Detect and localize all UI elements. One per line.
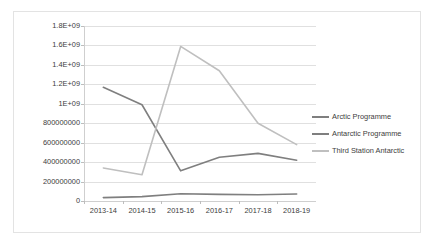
y-axis: 02000000004000000006000000008000000001E+…	[14, 12, 80, 232]
legend-item[interactable]: Antarctic Programme	[312, 125, 424, 142]
x-axis-tick	[161, 201, 162, 204]
y-axis-label: 1.8E+09	[52, 22, 80, 29]
x-axis-label: 2018-19	[283, 207, 310, 214]
y-axis-label: 200000000	[43, 178, 80, 185]
legend-swatch-icon	[312, 133, 329, 135]
x-axis-tick	[123, 201, 124, 204]
y-axis-label: 1.6E+09	[52, 41, 80, 48]
chart-legend: Arctic ProgrammeAntarctic ProgrammeThird…	[312, 108, 424, 159]
x-axis-label: 2014-15	[128, 207, 155, 214]
x-axis-label: 2016-17	[206, 207, 233, 214]
legend-label: Antarctic Programme	[332, 130, 401, 137]
legend-swatch-icon	[312, 116, 329, 118]
x-axis-label: 2013-14	[90, 207, 117, 214]
legend-label: Arctic Programme	[332, 113, 391, 120]
x-axis-label: 2017-18	[244, 207, 271, 214]
x-axis-tick	[239, 201, 240, 204]
y-axis-label: 800000000	[43, 119, 80, 126]
y-axis-label: 0	[76, 197, 80, 204]
x-axis-label: 2015-16	[167, 207, 194, 214]
x-axis-tick	[84, 201, 85, 204]
x-axis: 2013-142014-152015-162016-172017-182018-…	[84, 205, 316, 219]
y-axis-label: 1E+09	[58, 100, 80, 107]
legend-swatch-icon	[312, 150, 329, 152]
x-axis-tick	[200, 201, 201, 204]
plot-series	[84, 26, 316, 201]
y-axis-label: 1.2E+09	[52, 80, 80, 87]
legend-item[interactable]: Third Station Antarctic	[312, 142, 424, 159]
y-axis-label: 600000000	[43, 139, 80, 146]
y-axis-label: 400000000	[43, 158, 80, 165]
chart-container: 02000000004000000006000000008000000001E+…	[13, 11, 421, 233]
x-axis-tick	[277, 201, 278, 204]
y-axis-label: 1.4E+09	[52, 61, 80, 68]
legend-item[interactable]: Arctic Programme	[312, 108, 424, 125]
legend-label: Third Station Antarctic	[332, 147, 404, 154]
series-line	[103, 194, 296, 198]
